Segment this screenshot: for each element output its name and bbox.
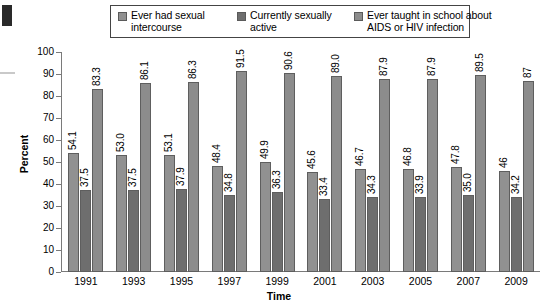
bar-value-label: 54.1 xyxy=(68,131,78,150)
bar-value-label: 34.2 xyxy=(511,175,521,194)
y-axis-tick-label: 10 xyxy=(32,245,54,255)
x-axis-tick-label: 1991 xyxy=(62,276,110,287)
bar-value-label: 37.5 xyxy=(80,168,90,187)
bar[interactable] xyxy=(140,83,151,272)
bar-value-label: 83.3 xyxy=(92,67,102,86)
bar-value-label: 33.9 xyxy=(415,176,425,195)
bar[interactable] xyxy=(68,153,79,272)
bar[interactable] xyxy=(403,169,414,272)
y-axis-tick-label: 50 xyxy=(32,157,54,167)
bar-value-label: 36.3 xyxy=(272,170,282,189)
y-axis-tick-label: 20 xyxy=(32,223,54,233)
bar-value-label: 87.9 xyxy=(379,57,389,76)
bar[interactable] xyxy=(523,81,534,272)
scan-artifact-line xyxy=(0,72,15,74)
bar-group: 49.936.390.6 xyxy=(260,52,295,272)
bar-value-label: 53.1 xyxy=(164,134,174,153)
bar[interactable] xyxy=(260,162,271,272)
bar[interactable] xyxy=(415,197,426,272)
legend-label-series-2: Currently sexuallyactive xyxy=(250,9,332,33)
legend-label-series-3-line2: AIDS or HIV infection xyxy=(367,21,464,33)
bar[interactable] xyxy=(307,172,318,272)
bar-value-label: 47.8 xyxy=(451,145,461,164)
y-axis-tick-label: 70 xyxy=(32,113,54,123)
y-axis-tick-label: 30 xyxy=(32,201,54,211)
legend-label-series-2-line2: active xyxy=(250,21,277,33)
legend-label-series-3: Ever taught in school aboutAIDS or HIV i… xyxy=(367,9,492,33)
bar[interactable] xyxy=(188,82,199,272)
x-axis-tick-label: 1995 xyxy=(158,276,206,287)
x-axis-title: Time xyxy=(0,290,558,302)
bar[interactable] xyxy=(128,190,139,273)
chart-legend: Ever had sexualintercourse Currently sex… xyxy=(110,5,470,38)
legend-swatch-series-1 xyxy=(118,12,127,21)
y-axis-tick-label: 80 xyxy=(32,91,54,101)
bar-value-label: 37.9 xyxy=(176,167,186,186)
bar-group: 4634.287 xyxy=(499,52,534,272)
bars-layer: 54.137.583.353.037.586.153.137.986.348.4… xyxy=(62,52,540,272)
bar-value-label: 91.5 xyxy=(236,49,246,68)
bar[interactable] xyxy=(92,89,103,272)
bar[interactable] xyxy=(212,166,223,272)
x-axis-tick-label: 1997 xyxy=(205,276,253,287)
legend-label-series-2-line1: Currently sexually xyxy=(250,9,332,21)
bar[interactable] xyxy=(319,199,330,272)
bar[interactable] xyxy=(284,73,295,272)
bar-value-label: 48.4 xyxy=(212,144,222,163)
x-axis-tick-label: 2001 xyxy=(301,276,349,287)
bar[interactable] xyxy=(367,197,378,272)
x-axis-tick-label: 2003 xyxy=(349,276,397,287)
legend-entry-ever-had-sexual-intercourse: Ever had sexualintercourse xyxy=(111,9,230,33)
y-axis-tick-label: 100 xyxy=(32,47,54,57)
x-axis-tick-label: 2009 xyxy=(492,276,540,287)
bar-group: 54.137.583.3 xyxy=(68,52,103,272)
x-axis-tick-label: 1999 xyxy=(253,276,301,287)
bar-value-label: 87.9 xyxy=(427,57,437,76)
bar-value-label: 89.5 xyxy=(475,53,485,72)
bar-value-label: 37.5 xyxy=(128,168,138,187)
bar-group: 48.434.891.5 xyxy=(212,52,247,272)
y-axis-tick-labels: 1009080706050403020100 xyxy=(28,0,54,307)
legend-label-series-1-line1: Ever had sexual xyxy=(131,9,205,21)
x-axis-tick-label: 2005 xyxy=(397,276,445,287)
bar-value-label: 90.6 xyxy=(284,51,294,70)
bar[interactable] xyxy=(355,169,366,272)
bar-group: 46.833.987.9 xyxy=(403,52,438,272)
bar[interactable] xyxy=(499,171,510,272)
bar-group: 45.633.489.0 xyxy=(307,52,342,272)
bar-value-label: 89.0 xyxy=(331,55,341,74)
bar-value-label: 45.6 xyxy=(307,150,317,169)
bar[interactable] xyxy=(80,190,91,273)
bar[interactable] xyxy=(272,192,283,272)
bar-group: 47.835.089.5 xyxy=(451,52,486,272)
bar[interactable] xyxy=(224,195,235,272)
bar-group: 46.734.387.9 xyxy=(355,52,390,272)
bar-value-label: 33.4 xyxy=(319,177,329,196)
bar[interactable] xyxy=(236,71,247,272)
legend-swatch-series-3 xyxy=(354,12,363,21)
y-axis-tick-label: 60 xyxy=(32,135,54,145)
y-axis-tick-label: 90 xyxy=(32,69,54,79)
bar[interactable] xyxy=(475,75,486,272)
legend-label-series-1-line2: intercourse xyxy=(131,21,182,33)
bar-group: 53.137.986.3 xyxy=(164,52,199,272)
bar[interactable] xyxy=(176,189,187,272)
x-axis-tick-label: 1993 xyxy=(110,276,158,287)
bar[interactable] xyxy=(463,195,474,272)
bar[interactable] xyxy=(331,76,342,272)
bar-value-label: 86.3 xyxy=(188,60,198,79)
legend-entry-currently-sexually-active: Currently sexuallyactive xyxy=(230,9,347,33)
y-axis-tick-label: 0 xyxy=(32,267,54,277)
bar[interactable] xyxy=(511,197,522,272)
bar-value-label: 86.1 xyxy=(140,61,150,80)
bar-value-label: 34.8 xyxy=(224,174,234,193)
bar[interactable] xyxy=(164,155,175,272)
bar[interactable] xyxy=(379,79,390,272)
legend-entry-ever-taught-in-school: Ever taught in school aboutAIDS or HIV i… xyxy=(347,9,492,33)
bar-value-label: 53.0 xyxy=(116,134,126,153)
bar-value-label: 34.3 xyxy=(367,175,377,194)
bar-value-label: 35.0 xyxy=(463,173,473,192)
bar[interactable] xyxy=(116,155,127,272)
bar[interactable] xyxy=(451,167,462,272)
bar[interactable] xyxy=(427,79,438,272)
